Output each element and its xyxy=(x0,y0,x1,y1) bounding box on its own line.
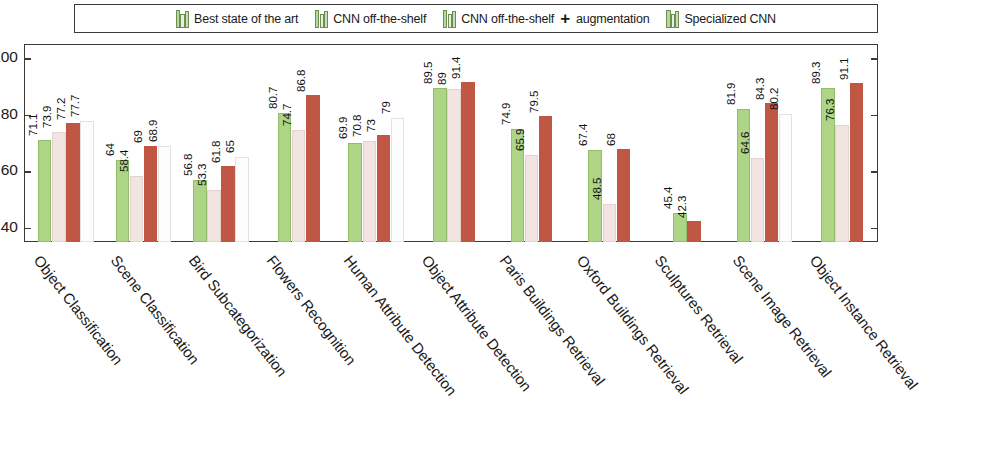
bar: 69.9 xyxy=(348,143,362,242)
y-axis-tick-label: 40 xyxy=(0,218,18,236)
bar-value-label: 74.9 xyxy=(500,103,512,125)
bar: 86.8 xyxy=(306,95,320,242)
bar: 77.2 xyxy=(66,123,80,242)
x-axis-label: Sculptures Retrieval xyxy=(652,252,747,367)
bar-value-label: 69 xyxy=(132,130,144,143)
bar-value-label: 73.9 xyxy=(41,106,53,128)
bar: 74.7 xyxy=(292,130,306,242)
bar-value-label: 81.9 xyxy=(725,83,737,105)
y-axis-tick-label: 100 xyxy=(0,48,18,66)
bar: 91.1 xyxy=(850,83,864,242)
legend-swatch-icon xyxy=(315,10,328,28)
legend-label-suffix: augmentation xyxy=(576,12,649,26)
bar: 84.3 xyxy=(765,103,779,242)
bar-value-label: 42.3 xyxy=(676,196,688,218)
bar-group: 56.853.361.865 xyxy=(193,44,249,242)
bar: 65 xyxy=(235,157,249,242)
bar: 76.3 xyxy=(835,125,849,242)
legend-label: CNN off-the-shelf xyxy=(333,12,426,26)
bar: 68 xyxy=(617,149,631,242)
bar-value-label: 56.8 xyxy=(182,154,194,176)
bar: 71.1 xyxy=(38,140,52,242)
bar-group: 45.442.3 xyxy=(673,44,701,242)
bar-value-label: 61.8 xyxy=(210,141,222,163)
bar-value-label: 74.7 xyxy=(281,103,293,125)
bar-group: 74.965.979.5 xyxy=(511,44,553,242)
legend-item-specialized-cnn: Specialized CNN xyxy=(666,10,775,28)
bar-value-label: 80.7 xyxy=(267,86,279,108)
bar-group: 67.448.568 xyxy=(588,44,630,242)
bar: 77.7 xyxy=(80,121,94,242)
bar-value-label: 64 xyxy=(104,143,116,156)
bar-value-label: 84.3 xyxy=(754,77,766,99)
bar: 42.3 xyxy=(687,221,701,242)
bar: 69 xyxy=(144,146,158,242)
bar: 58.4 xyxy=(130,176,144,242)
bar-value-label: 45.4 xyxy=(662,186,674,208)
bar: 64 xyxy=(116,160,130,242)
bar-value-label: 91.1 xyxy=(838,58,850,80)
bar-group: 6458.46968.9 xyxy=(116,44,172,242)
legend-label: Best state of the art xyxy=(194,12,298,26)
bar-group: 81.964.684.380.2 xyxy=(737,44,793,242)
bar: 80.2 xyxy=(779,114,793,242)
bar-value-label: 58.4 xyxy=(118,149,130,171)
bars-container: 71.173.977.277.76458.46968.956.853.361.8… xyxy=(24,44,878,242)
bar: 80.7 xyxy=(278,113,292,242)
bar: 79 xyxy=(391,118,405,242)
bar-value-label: 77.2 xyxy=(55,97,67,119)
x-axis-label: Scene Classification xyxy=(108,252,203,367)
legend-swatch-icon xyxy=(176,10,189,28)
bar: 53.3 xyxy=(207,190,221,242)
bar: 68.9 xyxy=(158,146,172,242)
y-axis-tick-label: 80 xyxy=(0,105,18,123)
bar-value-label: 71.1 xyxy=(27,114,39,136)
bar-chart-figure: Best state of the art CNN off-the-shelf … xyxy=(0,0,984,455)
bar-group: 89.58991.4 xyxy=(433,44,475,242)
legend-swatch-icon xyxy=(443,10,456,28)
bar-value-label: 64.6 xyxy=(739,132,751,154)
bar-group: 80.774.786.8 xyxy=(278,44,320,242)
bar-value-label: 69.9 xyxy=(337,117,349,139)
bar-value-label: 68.9 xyxy=(147,120,159,142)
bar: 70.8 xyxy=(363,141,377,242)
bar-value-label: 76.3 xyxy=(824,99,836,121)
plus-icon: + xyxy=(559,10,571,27)
y-axis-tick-label: 60 xyxy=(0,161,18,179)
bar-value-label: 79 xyxy=(380,101,392,114)
bar: 61.8 xyxy=(221,166,235,242)
bar-value-label: 91.4 xyxy=(450,57,462,79)
bar-value-label: 65 xyxy=(224,140,236,153)
bar: 65.9 xyxy=(525,155,539,242)
bar-value-label: 68 xyxy=(605,133,617,146)
bar-value-label: 89.5 xyxy=(422,61,434,83)
bar-value-label: 53.3 xyxy=(196,164,208,186)
legend-swatch-icon xyxy=(666,10,679,28)
bar-value-label: 48.5 xyxy=(591,177,603,199)
bar-value-label: 86.8 xyxy=(295,70,307,92)
bar: 89.5 xyxy=(433,88,447,242)
bar: 64.6 xyxy=(751,158,765,242)
bar-group: 69.970.87379 xyxy=(348,44,404,242)
x-axis-labels: Object ClassificationScene Classificatio… xyxy=(0,244,984,455)
x-axis-label: Flowers Recognition xyxy=(263,252,359,368)
bar: 48.5 xyxy=(603,204,617,242)
legend-item-best-state-of-the-art: Best state of the art xyxy=(176,10,298,28)
bar-value-label: 73 xyxy=(365,119,377,132)
bar-group: 71.173.977.277.7 xyxy=(38,44,94,242)
bar-value-label: 67.4 xyxy=(577,124,589,146)
bar: 56.8 xyxy=(193,180,207,242)
chart-legend: Best state of the art CNN off-the-shelf … xyxy=(74,4,878,33)
legend-label: CNN off-the-shelf xyxy=(461,12,554,26)
bar: 79.5 xyxy=(539,116,553,242)
x-axis-label: Object Classification xyxy=(30,252,126,368)
bar-group: 89.376.391.1 xyxy=(821,44,863,242)
bar-value-label: 80.2 xyxy=(768,88,780,110)
bar-value-label: 89 xyxy=(436,72,448,85)
bar-value-label: 65.9 xyxy=(514,128,526,150)
bar: 91.4 xyxy=(461,82,475,242)
legend-item-cnn-off-the-shelf: CNN off-the-shelf xyxy=(315,10,426,28)
bar-value-label: 77.7 xyxy=(69,95,81,117)
bar-value-label: 70.8 xyxy=(351,114,363,136)
bar: 73 xyxy=(377,135,391,242)
